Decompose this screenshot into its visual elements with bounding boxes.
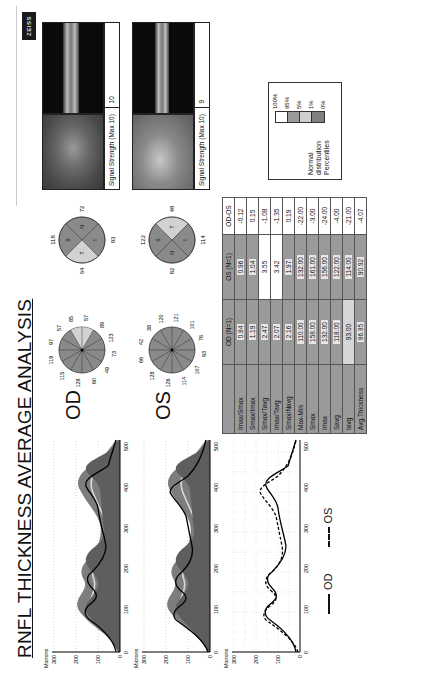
svg-text:89: 89 <box>99 322 105 328</box>
y-axis-label: Microns <box>43 648 49 668</box>
svg-text:128: 128 <box>75 378 81 387</box>
table-row: Max-Min110.00132.00-22.00 <box>295 198 307 434</box>
svg-text:0: 0 <box>303 651 309 654</box>
svg-text:120: 120 <box>158 314 164 323</box>
table-header-row: OD (N=1) OS (N=1) OD-OS <box>223 198 235 434</box>
comparison-legend: OD OS <box>322 508 334 614</box>
svg-text:200: 200 <box>253 655 259 664</box>
svg-text:I: I <box>182 239 188 240</box>
svg-text:200: 200 <box>123 564 129 573</box>
svg-text:100: 100 <box>185 655 191 664</box>
svg-text:72: 72 <box>79 205 85 212</box>
svg-text:57: 57 <box>83 315 89 321</box>
svg-text:101: 101 <box>189 320 195 329</box>
svg-text:300: 300 <box>123 524 129 533</box>
table-header <box>223 365 235 434</box>
svg-text:Microns: Microns <box>133 648 139 668</box>
svg-text:Microns: Microns <box>223 648 229 668</box>
table-header: OD (N=1) <box>223 300 235 365</box>
dashed-line-icon <box>328 528 330 548</box>
svg-text:122: 122 <box>140 234 146 245</box>
table-row: Smax/Tavg2.473.55-1.08 <box>259 198 271 434</box>
table-header: OS (N=1) <box>223 235 235 300</box>
svg-text:200: 200 <box>213 564 219 573</box>
svg-text:64: 64 <box>79 267 85 274</box>
svg-text:T: T <box>79 251 85 254</box>
svg-text:400: 400 <box>123 483 129 492</box>
svg-text:118: 118 <box>50 235 56 245</box>
legend-title: Normal distribution Percentiles <box>307 140 331 175</box>
legend-swatch-0-1 <box>311 111 325 123</box>
header-divider <box>16 6 17 206</box>
svg-text:100: 100 <box>275 655 281 664</box>
svg-text:85: 85 <box>68 316 74 322</box>
svg-text:N: N <box>169 251 175 255</box>
svg-text:76: 76 <box>198 335 204 341</box>
svg-text:128: 128 <box>149 371 155 380</box>
svg-text:300: 300 <box>51 655 57 664</box>
svg-text:100: 100 <box>95 655 101 664</box>
svg-text:0: 0 <box>117 655 123 658</box>
od-thickness-graph: Microns 3002001000 0100200300400500 <box>40 436 132 676</box>
legend-os: OS <box>322 508 334 548</box>
svg-text:57: 57 <box>56 325 62 331</box>
svg-text:T: T <box>169 225 175 228</box>
svg-text:97: 97 <box>48 339 54 345</box>
svg-text:100: 100 <box>123 605 129 614</box>
table-header: OD-OS <box>223 198 235 235</box>
svg-text:93: 93 <box>110 236 116 243</box>
svg-text:N: N <box>79 225 85 229</box>
table-row: Smax/Navg2.161.970.19 <box>283 198 295 434</box>
svg-text:38: 38 <box>146 325 152 331</box>
svg-text:300: 300 <box>303 524 309 533</box>
svg-text:121: 121 <box>173 313 179 322</box>
os-clock-hour-chart: 42 38 120 121 101 76 93 107 114 126 128 … <box>132 310 212 390</box>
svg-text:0: 0 <box>213 651 219 654</box>
svg-text:100: 100 <box>213 605 219 614</box>
svg-text:119: 119 <box>48 356 54 365</box>
svg-text:49: 49 <box>104 367 110 373</box>
svg-text:400: 400 <box>303 483 309 492</box>
rnfl-report-page: RNFL THICKNESS AVERAGE ANALYSIS Microns … <box>0 0 432 676</box>
svg-text:200: 200 <box>73 655 79 664</box>
od-fundus-image <box>42 114 104 190</box>
table-row: Savg118.00122.00-4.00 <box>331 198 343 434</box>
table-row: Imax/Tavg2.073.42-1.35 <box>271 198 283 434</box>
os-thickness-graph: Microns 3002001000 0100200300400500 <box>130 436 222 676</box>
svg-text:123: 123 <box>108 333 114 342</box>
od-quadrant-chart: SNIT 118 72 93 64 <box>44 200 120 280</box>
svg-text:0: 0 <box>123 651 129 654</box>
os-quadrant-chart: STIN 122 48 114 82 <box>134 200 210 280</box>
svg-text:500: 500 <box>303 442 309 451</box>
od-bscan-image <box>42 22 104 114</box>
svg-text:73: 73 <box>111 351 117 357</box>
svg-text:200: 200 <box>163 655 169 664</box>
svg-text:0: 0 <box>297 655 303 658</box>
legend-od: OD <box>322 574 334 615</box>
svg-text:66: 66 <box>138 357 144 363</box>
os-eye-label: OS <box>152 391 175 420</box>
svg-text:126: 126 <box>165 378 171 387</box>
svg-text:82: 82 <box>169 267 175 274</box>
svg-text:300: 300 <box>141 655 147 664</box>
table-row: Smax158.00161.00-3.00 <box>307 198 319 434</box>
svg-text:0: 0 <box>207 655 213 658</box>
rnfl-metrics-table: OD (N=1) OS (N=1) OD-OS Imax/Smax0.840.9… <box>222 197 367 434</box>
report-title: RNFL THICKNESS AVERAGE ANALYSIS <box>14 299 36 658</box>
solid-line-icon <box>328 594 330 614</box>
table-row: Avg.Thickness86.8590.92-4.07 <box>355 198 367 434</box>
svg-text:114: 114 <box>181 377 187 386</box>
od-eye-label: OD <box>62 390 85 420</box>
zeiss-logo: ZEISS <box>22 12 36 40</box>
svg-text:200: 200 <box>303 564 309 573</box>
svg-text:I: I <box>92 239 98 240</box>
os-fundus-image <box>132 114 194 190</box>
od-signal-strength: Signal Strength (Max 10) 10 <box>104 22 120 190</box>
svg-text:107: 107 <box>194 365 200 374</box>
table-row: Imax132.00156.00-24.00 <box>319 198 331 434</box>
svg-text:115: 115 <box>59 372 65 381</box>
percentile-legend: Normal distribution Percentiles 100% 95%… <box>268 82 342 180</box>
svg-text:42: 42 <box>138 339 144 345</box>
svg-text:300: 300 <box>231 655 237 664</box>
svg-text:500: 500 <box>123 442 129 451</box>
